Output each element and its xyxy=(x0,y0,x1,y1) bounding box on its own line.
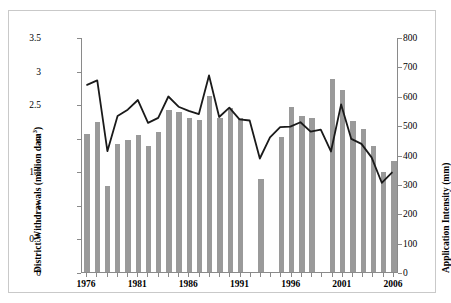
y-axis-left-tick-label: 2.5 xyxy=(1,100,41,110)
x-axis-tick-mark xyxy=(372,273,373,277)
y-axis-right-tick-label: 700 xyxy=(403,62,443,72)
x-axis-tick-label: 1996 xyxy=(281,279,300,289)
bar xyxy=(156,132,161,272)
bar xyxy=(361,129,366,272)
y-axis-right-tick-mark xyxy=(398,185,402,186)
x-axis-tick-mark xyxy=(260,273,261,277)
y-axis-left-tick-mark xyxy=(77,273,81,274)
x-axis-tick-mark xyxy=(86,273,87,277)
bar xyxy=(340,90,345,272)
x-axis-tick-mark xyxy=(383,273,384,277)
y-axis-left-tick-label: 3 xyxy=(1,67,41,77)
y-axis-left-tick-label: 1.5 xyxy=(1,167,41,177)
x-axis-tick-mark xyxy=(158,273,159,277)
bar xyxy=(238,118,243,272)
plot-area xyxy=(81,38,398,273)
bar xyxy=(176,112,181,272)
bar xyxy=(197,120,202,272)
x-axis-tick-mark xyxy=(209,273,210,277)
y-axis-right-tick-mark xyxy=(398,273,402,274)
y-axis-right-tick-label: 500 xyxy=(403,121,443,131)
y-axis-left-title-close: ) xyxy=(33,127,43,130)
x-axis-tick-mark xyxy=(137,273,138,277)
x-axis-tick-mark xyxy=(321,273,322,277)
bar xyxy=(381,172,386,272)
x-axis-tick-mark xyxy=(270,273,271,277)
bar xyxy=(279,137,284,272)
y-axis-right-tick-label: 800 xyxy=(403,33,443,43)
y-axis-right-tick-mark xyxy=(398,156,402,157)
x-axis-tick-mark xyxy=(301,273,302,277)
y-axis-right-tick-mark xyxy=(398,126,402,127)
y-axis-left-tick-label: 0.5 xyxy=(1,234,41,244)
bar xyxy=(217,118,222,272)
bar xyxy=(350,121,355,272)
bar xyxy=(105,186,110,272)
x-axis-tick-mark xyxy=(352,273,353,277)
y-axis-right-tick-mark xyxy=(398,97,402,98)
x-axis-tick-mark xyxy=(127,273,128,277)
y-axis-left-tick-label: 0 xyxy=(1,268,41,278)
x-axis-tick-label: 1991 xyxy=(230,279,249,289)
y-axis-right-tick-label: 400 xyxy=(403,151,443,161)
x-axis-tick-mark xyxy=(147,273,148,277)
x-axis-tick-label: 2001 xyxy=(332,279,351,289)
x-axis-tick-mark xyxy=(250,273,251,277)
y-axis-right-tick-mark xyxy=(398,214,402,215)
y-axis-right-tick-label: 600 xyxy=(403,92,443,102)
x-axis-tick-mark xyxy=(393,273,394,277)
y-axis-right-tick-label: 300 xyxy=(403,180,443,190)
bar xyxy=(125,140,130,272)
x-axis-tick-label: 1976 xyxy=(77,279,96,289)
x-axis-tick-mark xyxy=(96,273,97,277)
bar xyxy=(371,146,376,272)
x-axis-tick-mark xyxy=(291,273,292,277)
y-axis-right-tick-label: 200 xyxy=(403,209,443,219)
y-axis-right-tick-mark xyxy=(398,244,402,245)
y-axis-right-tick-mark xyxy=(398,67,402,68)
bar xyxy=(136,135,141,272)
bar-series-layer xyxy=(82,38,397,272)
bar xyxy=(289,107,294,272)
bar xyxy=(95,122,100,272)
x-axis-tick-mark xyxy=(107,273,108,277)
bar xyxy=(84,134,89,272)
x-axis-tick-label: 1981 xyxy=(128,279,147,289)
x-axis-tick-mark xyxy=(280,273,281,277)
x-axis-tick-mark xyxy=(117,273,118,277)
y-axis-left-tick-label: 2 xyxy=(1,134,41,144)
x-axis-tick-mark xyxy=(362,273,363,277)
bar xyxy=(228,108,233,272)
x-axis-tick-mark xyxy=(229,273,230,277)
y-axis-right-tick-label: 0 xyxy=(403,268,443,278)
bar xyxy=(309,118,314,272)
bar xyxy=(146,146,151,272)
x-axis-tick-mark xyxy=(178,273,179,277)
bar xyxy=(258,179,263,272)
y-axis-left-tick-label: 1 xyxy=(1,201,41,211)
x-axis-tick-mark xyxy=(332,273,333,277)
chart-frame: District Withdrawals (million dam3) Appl… xyxy=(8,10,436,293)
bar xyxy=(166,110,171,272)
x-axis-tick-label: 1986 xyxy=(179,279,198,289)
y-axis-left-tick-label: 3.5 xyxy=(1,33,41,43)
x-axis-tick-mark xyxy=(219,273,220,277)
x-axis-tick-mark xyxy=(240,273,241,277)
bar xyxy=(207,96,212,272)
x-axis-tick-mark xyxy=(342,273,343,277)
x-axis-tick-mark xyxy=(188,273,189,277)
x-axis-tick-label: 2006 xyxy=(383,279,402,289)
bar xyxy=(115,144,120,272)
bar xyxy=(299,116,304,272)
y-axis-right-tick-mark xyxy=(398,38,402,39)
bar xyxy=(391,161,396,272)
bar xyxy=(187,118,192,272)
y-axis-right-tick-label: 100 xyxy=(403,239,443,249)
x-axis-tick-mark xyxy=(199,273,200,277)
x-axis-tick-mark xyxy=(168,273,169,277)
bar xyxy=(330,79,335,272)
x-axis-tick-mark xyxy=(311,273,312,277)
